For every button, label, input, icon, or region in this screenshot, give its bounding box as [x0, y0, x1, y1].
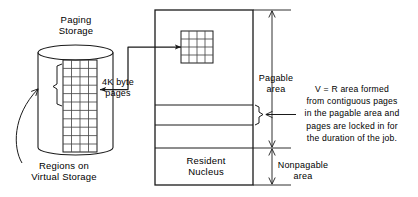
label-4k-byte-pages: 4K byte pages	[88, 77, 148, 98]
regions-bracket	[53, 64, 62, 106]
label-nonpagable-area: Nonpagable area	[275, 160, 331, 181]
paging-diagram: Paging Storage 4K byte pages Regions on …	[0, 0, 418, 197]
vr-area-brace	[255, 105, 263, 125]
label-paging-storage: Paging Storage	[40, 14, 112, 36]
real-pages-grid	[181, 31, 213, 63]
virtual-pages-grid	[63, 60, 97, 152]
label-regions-on-virtual-storage: Regions on Virtual Storage	[12, 160, 116, 182]
paging-storage-cylinder	[38, 45, 113, 155]
label-vr-area-note: V = R area formed from contiguous pages …	[288, 83, 416, 144]
regions-leader-line	[16, 89, 38, 163]
label-resident-nucleus: Resident Nucleus	[157, 155, 255, 177]
